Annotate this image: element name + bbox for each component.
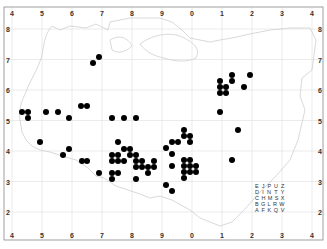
occurrence-dot xyxy=(133,158,139,164)
occurrence-dot xyxy=(187,163,193,169)
column-label: 3 xyxy=(280,232,284,239)
occurrence-dot xyxy=(133,152,139,158)
legend-cell: Q xyxy=(274,207,279,213)
occurrence-dot xyxy=(121,146,127,152)
occurrence-dot xyxy=(229,157,235,163)
occurrence-dot xyxy=(217,84,223,90)
occurrence-dot xyxy=(181,175,187,181)
row-label: 3 xyxy=(318,179,322,186)
column-label: 2 xyxy=(250,232,254,239)
occurrence-dot xyxy=(187,169,193,175)
occurrence-dot xyxy=(25,109,31,115)
occurrence-dot xyxy=(235,127,241,133)
occurrence-dot xyxy=(169,151,175,157)
column-label: 7 xyxy=(100,232,104,239)
occurrence-dot xyxy=(217,78,223,84)
occurrence-dot xyxy=(90,60,96,66)
occurrence-dot xyxy=(187,139,193,145)
column-label: 9 xyxy=(160,232,164,239)
occurrence-dot xyxy=(139,164,145,170)
occurrence-dot xyxy=(193,163,199,169)
column-label: 4 xyxy=(310,232,314,239)
occurrence-dot xyxy=(181,133,187,139)
occurrence-dot xyxy=(96,54,102,60)
occurrence-dot xyxy=(229,72,235,78)
occurrence-dot xyxy=(109,176,115,182)
column-label: 1 xyxy=(220,232,224,239)
row-label: 7 xyxy=(6,57,10,64)
occurrence-dot xyxy=(223,90,229,96)
occurrence-dot xyxy=(151,164,157,170)
legend-cell: A xyxy=(255,207,259,213)
occurrence-dot xyxy=(187,157,193,163)
occurrence-dot xyxy=(217,90,223,96)
occurrence-dot xyxy=(115,170,121,176)
occurrence-dot xyxy=(121,115,127,121)
row-label: 5 xyxy=(6,118,10,125)
column-label: 3 xyxy=(280,10,284,17)
occurrence-dot xyxy=(78,103,84,109)
occurrence-dot xyxy=(241,84,247,90)
occurrence-dot xyxy=(181,157,187,163)
occurrence-dot xyxy=(37,139,43,145)
legend-cell: V xyxy=(281,207,285,213)
column-label: 7 xyxy=(100,10,104,17)
row-label: 6 xyxy=(318,87,322,94)
occurrence-dot xyxy=(115,152,121,158)
occurrence-dot xyxy=(145,170,151,176)
row-label: 6 xyxy=(6,87,10,94)
occurrence-dot xyxy=(163,182,169,188)
occurrence-dot xyxy=(66,146,72,152)
column-label: 6 xyxy=(70,232,74,239)
grid-letter-legend: EJPUZDINTYCHMSXBGLRWAFKQV xyxy=(255,183,285,213)
occurrence-dot xyxy=(145,164,151,170)
column-label: 0 xyxy=(190,232,194,239)
column-label: 0 xyxy=(190,10,194,17)
row-label: 8 xyxy=(318,26,322,33)
occurrence-dots xyxy=(19,54,253,194)
occurrence-dot xyxy=(181,163,187,169)
occurrence-dot xyxy=(25,115,31,121)
occurrence-dot xyxy=(151,158,157,164)
column-label: 1 xyxy=(220,10,224,17)
occurrence-dot xyxy=(84,103,90,109)
occurrence-dot xyxy=(121,158,127,164)
legend-row: AFKQV xyxy=(255,207,285,213)
occurrence-dot xyxy=(139,158,145,164)
occurrence-dot xyxy=(109,152,115,158)
row-label: 2 xyxy=(6,209,10,216)
legend-cell: F xyxy=(261,207,265,213)
occurrence-dot xyxy=(66,115,72,121)
occurrence-dot xyxy=(181,127,187,133)
column-label: 4 xyxy=(10,232,14,239)
column-label: 6 xyxy=(70,10,74,17)
row-label: 7 xyxy=(318,57,322,64)
occurrence-dot xyxy=(55,109,61,115)
occurrence-dot xyxy=(169,139,175,145)
legend-cell: K xyxy=(267,207,271,213)
row-label: 5 xyxy=(318,118,322,125)
row-label: 4 xyxy=(318,148,322,155)
occurrence-dot xyxy=(223,84,229,90)
column-label: 4 xyxy=(310,10,314,17)
occurrence-dot xyxy=(115,158,121,164)
column-label: 5 xyxy=(40,10,44,17)
column-label: 2 xyxy=(250,10,254,17)
occurrence-dot xyxy=(109,158,115,164)
row-label: 3 xyxy=(6,179,10,186)
occurrence-dot xyxy=(163,145,169,151)
column-label: 5 xyxy=(40,232,44,239)
occurrence-dot xyxy=(109,115,115,121)
occurrence-dot xyxy=(115,139,121,145)
occurrence-dot xyxy=(127,146,133,152)
occurrence-dot xyxy=(109,170,115,176)
occurrence-dot xyxy=(133,176,139,182)
occurrence-dot xyxy=(133,164,139,170)
occurrence-dot xyxy=(187,133,193,139)
row-label: 2 xyxy=(318,209,322,216)
occurrence-dot xyxy=(193,169,199,175)
occurrence-dot xyxy=(96,170,102,176)
occurrence-dot xyxy=(133,115,139,121)
column-label: 8 xyxy=(130,10,134,17)
occurrence-dot xyxy=(175,139,181,145)
